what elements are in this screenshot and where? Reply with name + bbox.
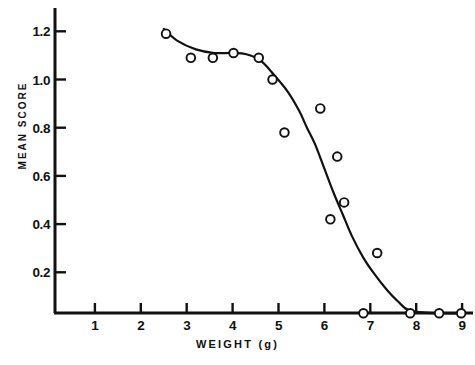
data-point-marker: [406, 309, 415, 318]
y-axis-title: MEAN SCORE: [17, 66, 28, 186]
x-axis-tick-label: 3: [183, 318, 190, 333]
x-axis-tick-label: 4: [229, 318, 236, 333]
x-axis-tick-label: 6: [321, 318, 328, 333]
y-axis-tick-label: 0.4: [0, 217, 50, 232]
data-points: [162, 29, 466, 317]
data-point-marker: [268, 75, 277, 84]
x-axis-tick-label: 8: [413, 318, 420, 333]
data-point-marker: [229, 49, 238, 58]
x-axis-tick-label: 1: [91, 318, 98, 333]
data-point-marker: [359, 309, 368, 318]
data-point-marker: [333, 152, 342, 161]
data-point-marker: [316, 104, 325, 113]
y-axis-tick-label: 0.2: [0, 265, 50, 280]
data-point-marker: [280, 128, 289, 137]
x-axis-tick-label: 2: [137, 318, 144, 333]
data-point-marker: [254, 54, 263, 63]
fitted-curve-path: [164, 29, 465, 314]
y-axis-ticks: [55, 31, 66, 272]
x-axis-tick-label: 7: [367, 318, 374, 333]
data-point-marker: [209, 54, 218, 63]
data-point-marker: [162, 29, 171, 38]
axes: [54, 8, 473, 313]
scatter-plot-canvas: [0, 0, 475, 365]
x-axis-title: WEIGHT (g): [0, 338, 475, 350]
chart-figure: 0.20.40.60.81.01.2 123456789 WEIGHT (g) …: [0, 0, 475, 365]
data-point-marker: [340, 198, 349, 207]
data-point-marker: [435, 309, 444, 318]
x-axis-tick-label: 5: [275, 318, 282, 333]
data-point-marker: [373, 249, 382, 258]
data-point-marker: [457, 309, 466, 318]
y-axis-tick-label: 1.2: [0, 24, 50, 39]
data-point-marker: [326, 215, 335, 224]
x-axis-tick-label: 9: [459, 318, 466, 333]
data-point-marker: [187, 54, 196, 63]
